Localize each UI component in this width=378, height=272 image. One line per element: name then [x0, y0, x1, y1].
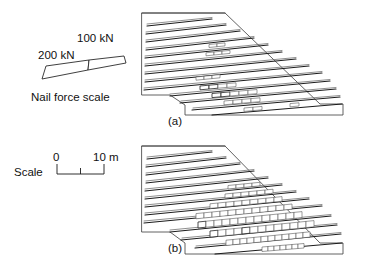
distance-scale-bar [57, 164, 104, 174]
panel-b-force-cell [222, 219, 230, 226]
nail-force-scale-legend: 200 kN 100 kN Nail force scale [31, 32, 126, 103]
panel-b-force-cell [242, 227, 250, 234]
panel-a-force-cell [242, 99, 251, 104]
panel-b-force-cell [249, 191, 257, 196]
distance-scale-end-label: 10 m [93, 151, 119, 163]
panel-b-force-cell [274, 224, 282, 231]
panel-b-force-cell [265, 189, 273, 194]
panel-b-force-cell [303, 232, 310, 238]
panel-b-force-cell [284, 204, 292, 210]
panel-a-force-cell [204, 75, 212, 79]
panel-a-force-cell [214, 51, 222, 55]
panel-b-force-cell [292, 244, 298, 249]
panel-a-force-cell [230, 91, 239, 96]
panel-b-force-cell [226, 201, 234, 206]
panel-b-force-cell [244, 208, 252, 214]
panel-b-force-cell [238, 217, 246, 224]
panel-b-force-cell [210, 230, 218, 237]
panel-b-force-cell [298, 221, 306, 228]
panel-a-force-cell [196, 76, 204, 80]
distance-scale-legend: Scale 0 10 m [14, 151, 119, 178]
panel-a: (a) [142, 13, 343, 127]
panel-b-force-cell [296, 233, 303, 239]
distance-scale-start-label: 0 [53, 151, 59, 163]
panel-b-force-cell [196, 213, 204, 219]
panel-b-force-cell [290, 222, 298, 229]
panel-b-force-cell [254, 237, 261, 243]
figure-root: 200 kN 100 kN Nail force scale Scale 0 1… [0, 0, 378, 272]
panel-b-force-cell [258, 198, 266, 203]
panel-b-force-cell [220, 210, 228, 216]
panel-b-force-cell [204, 212, 212, 218]
panel-b-force-cell [286, 212, 294, 219]
panel-b-force-cell [218, 229, 226, 236]
panel-b-force-cell [252, 207, 260, 213]
nail-force-wedge-thick [42, 60, 89, 79]
panel-b-force-cell [282, 223, 290, 230]
panel-a-force-cell [206, 52, 214, 56]
panel-b-force-cell [240, 238, 247, 244]
panel-b-force-cell [258, 225, 266, 232]
panel-b-force-cell [298, 244, 304, 249]
panel-a-force-cell [224, 100, 233, 105]
panel-a-force-cell [251, 98, 260, 103]
panel-b-force-cell [275, 235, 282, 241]
panel-b-force-cell [280, 245, 286, 250]
panel-a-force-cell [244, 107, 253, 111]
panel-a-force-cell [227, 83, 236, 88]
panel-a-force-cell [209, 84, 218, 89]
panel-b-force-cell [247, 237, 254, 243]
panel-b-force-cell [228, 185, 236, 189]
nail-force-mid-label: 100 kN [77, 32, 113, 44]
slope-nail-force-figure: 200 kN 100 kN Nail force scale Scale 0 1… [0, 0, 378, 272]
panel-b-force-cell [250, 226, 258, 233]
panel-b-force-cell [252, 182, 260, 186]
panel-a-force-cell [222, 50, 230, 54]
panel-b-force-cell [268, 246, 274, 251]
panel-b-force-cell [241, 192, 249, 197]
panel-b-force-cell [236, 184, 244, 188]
panel-a-force-cell [200, 85, 209, 90]
panel-b-force-cell [236, 209, 244, 215]
panel-b-force-cell [230, 218, 238, 225]
panel-b-force-cell [262, 215, 270, 222]
panel-a-force-cell [209, 44, 217, 48]
panel-b-force-cell [294, 212, 302, 219]
panel-b-force-cell [274, 197, 282, 202]
panel-a-force-cell [248, 90, 257, 95]
panel-b-force-cell [226, 240, 233, 246]
panel-b-force-cell [198, 221, 206, 228]
panel-b-force-cell [210, 203, 218, 208]
panel-b-force-cell [278, 213, 286, 220]
panel-b: (b) [142, 146, 343, 254]
panel-a-nail [192, 97, 340, 110]
panel-b-force-cell [234, 228, 242, 235]
panel-b-force-cell [250, 199, 258, 204]
distance-scale-title: Scale [14, 166, 43, 178]
panel-b-envelope [145, 177, 268, 190]
panel-a-envelope [146, 30, 240, 41]
panel-a-label: (a) [168, 115, 182, 127]
panel-b-force-cell [262, 247, 268, 252]
panel-b-force-blocks [196, 182, 314, 251]
nail-force-scale-title: Nail force scale [31, 91, 110, 103]
panel-a-force-cell [233, 99, 242, 104]
panel-b-nail [147, 152, 212, 159]
panel-a-envelope [145, 65, 309, 81]
panel-a-nail [147, 19, 212, 26]
nail-force-max-label: 200 kN [38, 49, 74, 61]
panel-b-force-cell [257, 190, 265, 195]
panel-b-force-cell [233, 192, 241, 197]
panel-b-force-cell [228, 210, 236, 216]
panel-b-force-cell [261, 236, 268, 242]
panel-b-force-cell [226, 229, 234, 236]
panel-b-force-cell [214, 220, 222, 227]
panel-b-force-cell [233, 239, 240, 245]
panel-b-force-cell [242, 200, 250, 205]
panel-b-force-cell [206, 220, 214, 227]
panel-b-force-cell [266, 225, 274, 232]
panel-b-force-cell [289, 233, 296, 239]
panel-b-force-cell [254, 216, 262, 223]
panel-b-force-cell [268, 206, 276, 212]
panel-a-force-cell [217, 43, 225, 47]
